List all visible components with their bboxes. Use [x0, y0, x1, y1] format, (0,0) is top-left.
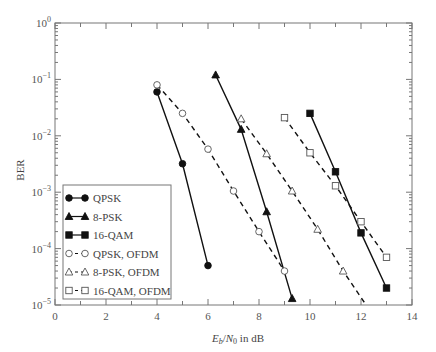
- x-tick-label: 10: [305, 310, 317, 322]
- x-tick-label: 14: [407, 310, 419, 322]
- x-axis-label: Eb/N0 in dB: [211, 332, 264, 346]
- y-tick-label: 10−1: [31, 71, 51, 85]
- legend-label: 16-QAM: [93, 229, 134, 241]
- legend-label: QPSK: [93, 192, 121, 204]
- series-16-qam: [307, 110, 390, 291]
- series-qpsk-ofdm: [154, 82, 288, 275]
- y-tick-label: 10−3: [31, 184, 51, 198]
- data-series: [154, 71, 390, 305]
- series-8-psk-ofdm: [237, 115, 366, 305]
- legend-label: 8-PSK: [93, 211, 122, 223]
- x-tick-label: 4: [154, 310, 160, 322]
- series-8-psk: [212, 71, 296, 302]
- legend-label: QPSK, OFDM: [93, 248, 159, 260]
- legend: QPSK8-PSK16-QAMQPSK, OFDM8-PSK, OFDM16-Q…: [63, 185, 171, 299]
- y-tick-label: 10−2: [31, 128, 51, 142]
- series-16-qam-ofdm: [281, 114, 389, 260]
- ber-chart: 0246810121410010−110−210−310−410−5 QPSK8…: [0, 0, 436, 352]
- y-axis-label: BER: [14, 159, 26, 181]
- legend-label: 16-QAM, OFDM: [93, 285, 171, 297]
- x-tick-label: 0: [52, 310, 58, 322]
- x-tick-label: 6: [205, 310, 211, 322]
- y-tick-label: 100: [36, 15, 51, 29]
- legend-label: 8-PSK, OFDM: [93, 266, 160, 278]
- y-tick-label: 10−5: [31, 297, 51, 311]
- x-tick-label: 2: [103, 310, 109, 322]
- y-tick-label: 10−4: [31, 241, 51, 255]
- x-tick-label: 8: [256, 310, 262, 322]
- x-tick-label: 12: [356, 310, 367, 322]
